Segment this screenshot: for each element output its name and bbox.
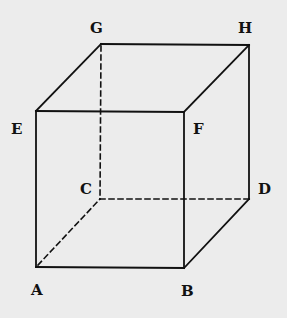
label-F: F xyxy=(193,120,204,138)
label-B: B xyxy=(181,282,194,300)
edge-EG xyxy=(36,44,101,111)
edge-GC-dashed xyxy=(100,46,101,199)
label-C: C xyxy=(80,180,92,198)
label-E: E xyxy=(11,120,22,138)
edge-GH xyxy=(101,44,249,45)
edge-AC-dashed xyxy=(38,199,100,265)
vertex-labels: A B C D E F G H xyxy=(11,19,271,300)
label-G: G xyxy=(90,19,103,37)
label-A: A xyxy=(30,281,43,299)
solid-edges xyxy=(36,44,249,268)
edge-AB xyxy=(36,267,184,268)
label-D: D xyxy=(258,180,271,198)
edge-EF xyxy=(36,111,184,112)
cube-diagram: A B C D E F G H xyxy=(0,0,287,318)
label-H: H xyxy=(238,19,252,37)
edge-FH xyxy=(184,45,249,112)
edge-BD xyxy=(184,199,249,268)
